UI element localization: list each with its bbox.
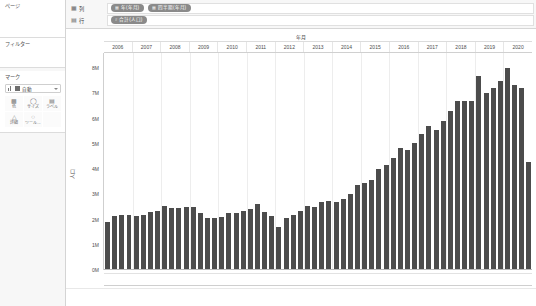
bar-2006-Q4[interactable] <box>127 215 132 271</box>
bar-2019-Q3[interactable] <box>491 88 496 270</box>
bar-slot[interactable] <box>361 53 368 270</box>
bar-2011-Q1[interactable] <box>248 209 253 270</box>
bar-slot[interactable] <box>390 53 397 270</box>
bar-2007-Q2[interactable] <box>141 215 146 271</box>
bar-2014-Q1[interactable] <box>334 202 339 270</box>
bar-2017-Q1[interactable] <box>419 134 424 270</box>
bar-2018-Q1[interactable] <box>448 111 453 270</box>
bar-2012-Q3[interactable] <box>291 215 296 271</box>
bar-slot[interactable] <box>190 53 197 270</box>
bar-slot[interactable] <box>525 53 532 270</box>
columns-shelf-dropzone[interactable]: ▦年(年月) ▦四半期(年月) <box>107 3 534 14</box>
bar-slot[interactable] <box>418 53 425 270</box>
bar-slot[interactable] <box>204 53 211 270</box>
bar-2018-Q4[interactable] <box>469 101 474 270</box>
year-label-2011[interactable]: 2011 <box>246 42 275 52</box>
bar-2013-Q1[interactable] <box>305 206 310 270</box>
bar-slot[interactable] <box>254 53 261 270</box>
bar-2016-Q4[interactable] <box>412 143 417 270</box>
bar-slot[interactable] <box>504 53 511 270</box>
pages-shelf-panel[interactable]: ページ <box>0 0 65 38</box>
bar-2009-Q2[interactable] <box>198 213 203 270</box>
bar-2009-Q4[interactable] <box>212 218 217 270</box>
bar-2020-Q3[interactable] <box>519 88 524 270</box>
bar-slot[interactable] <box>125 53 132 270</box>
bar-2014-Q4[interactable] <box>355 185 360 270</box>
bar-2008-Q3[interactable] <box>176 208 181 270</box>
year-label-2007[interactable]: 2007 <box>132 42 161 52</box>
bar-slot[interactable] <box>233 53 240 270</box>
bar-2010-Q3[interactable] <box>234 213 239 270</box>
bar-2012-Q4[interactable] <box>298 211 303 270</box>
bar-2013-Q3[interactable] <box>319 202 324 270</box>
bar-2020-Q2[interactable] <box>512 85 517 270</box>
bar-slot[interactable] <box>404 53 411 270</box>
marks-detail-button[interactable]: △ 詳細 <box>5 112 23 127</box>
bar-2018-Q3[interactable] <box>462 101 467 270</box>
bar-2014-Q3[interactable] <box>348 194 353 270</box>
bar-2019-Q2[interactable] <box>484 93 489 270</box>
bar-2006-Q2[interactable] <box>112 216 117 270</box>
year-label-2010[interactable]: 2010 <box>217 42 246 52</box>
bar-slot[interactable] <box>333 53 340 270</box>
bar-slot[interactable] <box>225 53 232 270</box>
bar-slot[interactable] <box>432 53 439 270</box>
bar-slot[interactable] <box>311 53 318 270</box>
bar-slot[interactable] <box>111 53 118 270</box>
pill-columns-quarter[interactable]: ▦四半期(年月) <box>148 4 191 12</box>
bar-slot[interactable] <box>511 53 518 270</box>
year-label-2014[interactable]: 2014 <box>332 42 361 52</box>
year-label-2018[interactable]: 2018 <box>446 42 475 52</box>
bar-2015-Q1[interactable] <box>362 183 367 270</box>
bar-2006-Q3[interactable] <box>119 215 124 271</box>
bar-2016-Q3[interactable] <box>405 150 410 270</box>
bar-slot[interactable] <box>283 53 290 270</box>
year-label-2017[interactable]: 2017 <box>418 42 447 52</box>
bar-slot[interactable] <box>275 53 282 270</box>
marks-size-button[interactable]: ◯ サイズ <box>24 96 42 111</box>
bar-2020-Q4[interactable] <box>526 162 531 271</box>
bar-slot[interactable] <box>461 53 468 270</box>
bar-2012-Q1[interactable] <box>276 227 281 270</box>
bar-2019-Q4[interactable] <box>498 81 503 270</box>
year-label-2020[interactable]: 2020 <box>503 42 532 52</box>
year-label-2019[interactable]: 2019 <box>475 42 504 52</box>
bar-2013-Q2[interactable] <box>312 207 317 270</box>
pill-columns-year[interactable]: ▦年(年月) <box>111 4 144 12</box>
bar-slot[interactable] <box>304 53 311 270</box>
marks-label-button[interactable]: ▤ ラベル <box>43 96 61 111</box>
rows-shelf-dropzone[interactable]: #合計(人口) <box>107 15 534 26</box>
bar-2015-Q2[interactable] <box>369 180 374 270</box>
bar-slot[interactable] <box>247 53 254 270</box>
marks-color-button[interactable]: ▩ 色 <box>5 96 23 111</box>
bar-2019-Q1[interactable] <box>476 76 481 270</box>
bar-2014-Q2[interactable] <box>341 199 346 270</box>
bar-slot[interactable] <box>518 53 525 270</box>
bar-2013-Q4[interactable] <box>326 201 331 270</box>
bar-slot[interactable] <box>447 53 454 270</box>
bar-slot[interactable] <box>104 53 111 270</box>
bar-2012-Q2[interactable] <box>284 218 289 270</box>
bar-slot[interactable] <box>347 53 354 270</box>
bar-slot[interactable] <box>154 53 161 270</box>
bar-2017-Q3[interactable] <box>434 130 439 270</box>
bar-slot[interactable] <box>161 53 168 270</box>
bar-slot[interactable] <box>490 53 497 270</box>
year-label-2006[interactable]: 2006 <box>104 42 132 52</box>
year-label-2015[interactable]: 2015 <box>360 42 389 52</box>
bar-slot[interactable] <box>482 53 489 270</box>
bar-2007-Q4[interactable] <box>155 211 160 270</box>
bar-2016-Q2[interactable] <box>398 148 403 270</box>
bar-slot[interactable] <box>218 53 225 270</box>
bar-slot[interactable] <box>147 53 154 270</box>
bar-slot[interactable] <box>318 53 325 270</box>
bar-2011-Q4[interactable] <box>269 216 274 270</box>
bar-2011-Q2[interactable] <box>255 204 260 270</box>
bar-slot[interactable] <box>175 53 182 270</box>
year-label-2012[interactable]: 2012 <box>275 42 304 52</box>
bar-2018-Q2[interactable] <box>455 101 460 270</box>
bar-2008-Q1[interactable] <box>162 206 167 270</box>
bar-2011-Q3[interactable] <box>262 212 267 270</box>
pill-rows-sum-population[interactable]: #合計(人口) <box>111 16 147 24</box>
year-label-2013[interactable]: 2013 <box>303 42 332 52</box>
